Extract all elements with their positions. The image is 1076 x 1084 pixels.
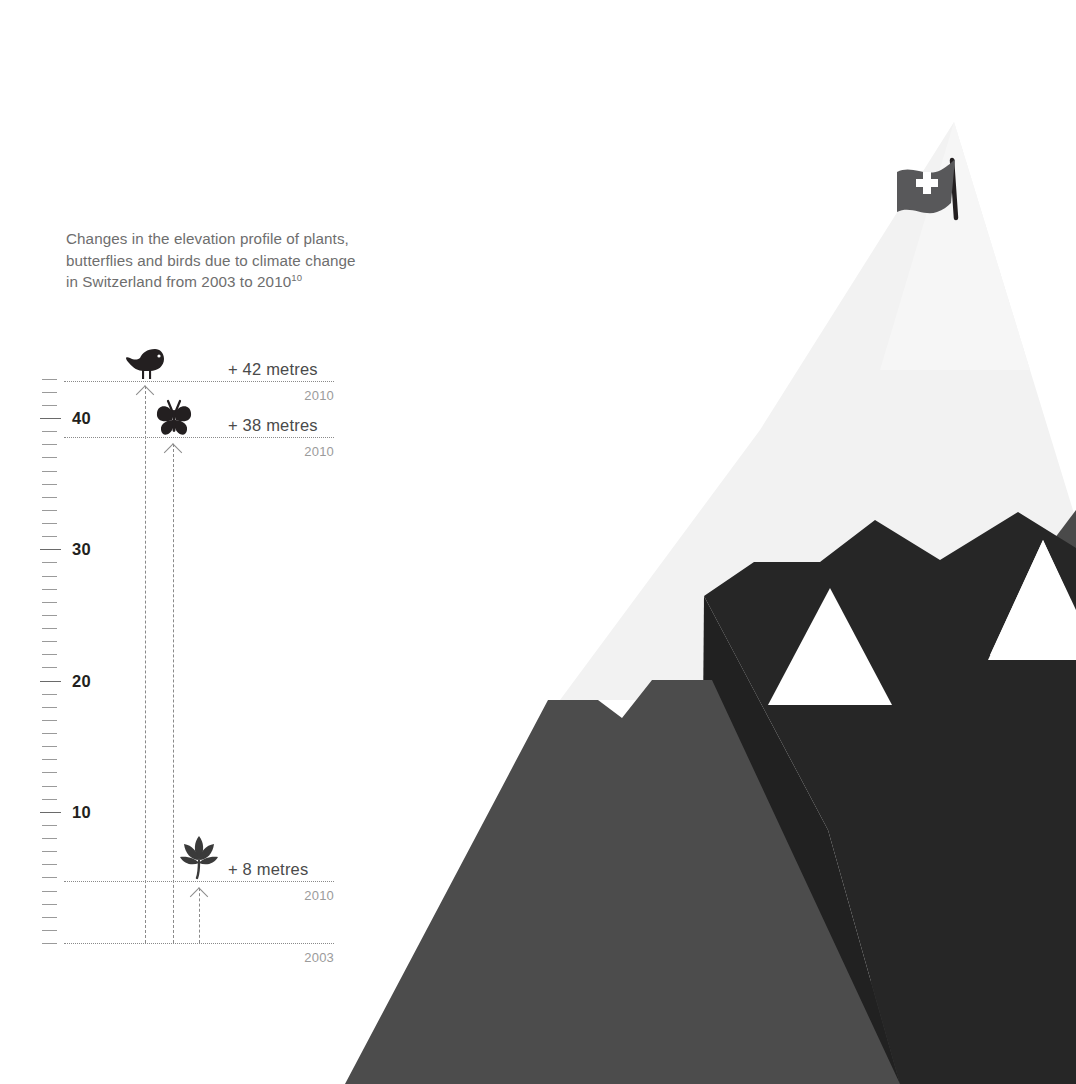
gridline-butterflies xyxy=(64,437,334,438)
mountain-dark-ridge xyxy=(704,512,1076,1084)
y-axis-minor-tick-24 xyxy=(42,628,57,629)
y-axis-minor-tick-12 xyxy=(42,786,57,787)
y-axis-minor-tick-25 xyxy=(42,615,57,616)
y-axis-major-tick-40 xyxy=(40,418,61,419)
y-axis-minor-tick-31 xyxy=(42,536,57,537)
y-axis-minor-tick-27 xyxy=(42,589,57,590)
y-axis-minor-tick-28 xyxy=(42,576,57,577)
y-axis-minor-tick-39 xyxy=(42,431,57,432)
gridline-birds xyxy=(64,381,334,382)
snow-cap-right xyxy=(990,540,1076,655)
y-axis-minor-tick-13 xyxy=(42,772,57,773)
y-axis-minor-tick-26 xyxy=(42,602,57,603)
swiss-flag-icon xyxy=(897,159,956,218)
mountain-right xyxy=(846,510,1076,1084)
y-axis-label-40: 40 xyxy=(72,409,91,428)
y-axis-minor-tick-15 xyxy=(42,746,57,747)
y-axis-minor-tick-22 xyxy=(42,654,57,655)
y-axis-minor-tick-35 xyxy=(42,484,57,485)
background-mountain-shoulder xyxy=(880,122,1030,370)
arrow-head-plants xyxy=(190,887,208,905)
y-axis-minor-tick-34 xyxy=(42,497,57,498)
y-axis-minor-tick-23 xyxy=(42,641,57,642)
snow-cap-left xyxy=(768,588,892,705)
y-axis-minor-tick-33 xyxy=(42,510,57,511)
y-axis-minor-tick-32 xyxy=(42,523,57,524)
gridline-baseline xyxy=(64,943,334,944)
y-axis-minor-tick-29 xyxy=(42,562,57,563)
mountain-front xyxy=(345,680,900,1084)
y-axis-minor-tick-3 xyxy=(42,904,57,905)
y-axis-label-30: 30 xyxy=(72,540,91,559)
y-axis-minor-tick-0 xyxy=(42,943,57,944)
elevation-chart: 10203040 + 42 metres 2010 + 38 metres 20… xyxy=(0,0,420,1084)
y-axis-minor-tick-19 xyxy=(42,694,57,695)
y-axis-minor-tick-4 xyxy=(42,891,57,892)
year-label-birds: 2010 xyxy=(214,388,334,403)
value-label-butterflies: + 38 metres xyxy=(228,416,318,435)
y-axis-minor-tick-5 xyxy=(42,877,57,878)
year-label-baseline: 2003 xyxy=(214,950,334,965)
y-axis-minor-tick-11 xyxy=(42,799,57,800)
y-axis-major-tick-10 xyxy=(40,812,61,813)
y-axis-label-10: 10 xyxy=(72,802,91,821)
y-axis-minor-tick-1 xyxy=(42,930,57,931)
y-axis-minor-tick-43 xyxy=(42,379,57,380)
y-axis-major-tick-20 xyxy=(40,681,61,682)
snow-cap-far-right xyxy=(988,540,1076,660)
y-axis-minor-tick-36 xyxy=(42,471,57,472)
y-axis-minor-tick-2 xyxy=(42,917,57,918)
y-axis-minor-tick-21 xyxy=(42,667,57,668)
y-axis-minor-tick-8 xyxy=(42,838,57,839)
value-label-plants: + 8 metres xyxy=(228,860,308,879)
background-mountain xyxy=(560,122,1076,700)
year-label-plants: 2010 xyxy=(214,888,334,903)
value-label-birds: + 42 metres xyxy=(228,360,318,379)
riser-birds xyxy=(145,386,146,943)
y-axis-minor-tick-38 xyxy=(42,444,57,445)
bird-icon xyxy=(124,341,166,381)
gridline-plants xyxy=(64,881,334,882)
riser-butterflies xyxy=(173,444,174,943)
y-axis-minor-tick-41 xyxy=(42,405,57,406)
y-axis-minor-tick-9 xyxy=(42,825,57,826)
y-axis-minor-tick-37 xyxy=(42,457,57,458)
y-axis-minor-tick-6 xyxy=(42,864,57,865)
y-axis-minor-tick-17 xyxy=(42,720,57,721)
arrow-head-birds xyxy=(136,385,154,403)
y-axis-major-tick-30 xyxy=(40,549,61,550)
y-axis-label-20: 20 xyxy=(72,671,91,690)
butterfly-icon xyxy=(154,398,194,440)
y-axis-minor-tick-14 xyxy=(42,759,57,760)
arrow-head-butterflies xyxy=(164,443,182,461)
year-label-butterflies: 2010 xyxy=(214,444,334,459)
plant-icon xyxy=(178,832,220,880)
mountain-dark-flank xyxy=(700,596,900,1084)
y-axis-minor-tick-18 xyxy=(42,707,57,708)
y-axis-minor-tick-42 xyxy=(42,392,57,393)
y-axis-minor-tick-7 xyxy=(42,851,57,852)
y-axis-minor-tick-16 xyxy=(42,733,57,734)
